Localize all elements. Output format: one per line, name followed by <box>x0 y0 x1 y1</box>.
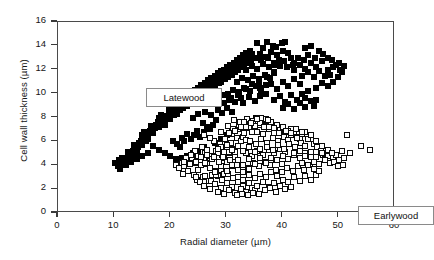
data-point-latewood <box>285 83 291 89</box>
data-point-latewood <box>263 91 269 97</box>
data-point-earlywood <box>215 146 221 152</box>
data-point-earlywood <box>276 130 282 136</box>
data-point-earlywood <box>263 160 269 166</box>
data-point-earlywood <box>288 184 294 190</box>
data-point-earlywood <box>181 159 187 165</box>
data-point-earlywood <box>299 129 305 135</box>
data-point-latewood <box>312 55 318 61</box>
data-point-earlywood <box>273 189 279 195</box>
data-point-earlywood <box>340 162 346 168</box>
data-point-latewood <box>264 74 270 80</box>
data-point-latewood <box>162 122 168 128</box>
x-tick-label: 10 <box>93 219 133 230</box>
data-point-latewood <box>301 57 307 63</box>
data-point-earlywood <box>218 129 224 135</box>
annotation-latewood: Latewood <box>146 88 222 107</box>
data-point-latewood <box>274 86 280 92</box>
data-point-latewood <box>249 81 255 87</box>
data-point-latewood <box>337 67 343 73</box>
data-point-latewood <box>273 44 279 50</box>
data-point-earlywood <box>316 168 322 174</box>
y-tick-label: 10 <box>6 86 46 97</box>
data-point-latewood <box>145 150 151 156</box>
x-tick-label: 30 <box>206 219 246 230</box>
data-point-latewood <box>282 39 288 45</box>
x-tick-mark <box>113 212 114 217</box>
data-point-earlywood <box>221 149 227 155</box>
x-axis-title: Radial diameter (µm) <box>57 236 394 247</box>
data-point-earlywood <box>261 124 267 130</box>
data-point-latewood <box>302 104 308 110</box>
data-point-latewood <box>256 79 262 85</box>
data-point-earlywood <box>227 157 233 163</box>
plot-area: Latewood Earlywood <box>57 21 394 212</box>
data-point-earlywood <box>358 143 364 149</box>
data-point-latewood <box>181 138 187 144</box>
data-point-latewood <box>264 39 270 45</box>
data-point-latewood <box>128 159 134 165</box>
data-point-earlywood <box>204 147 210 153</box>
data-point-earlywood <box>254 116 260 122</box>
x-tick-label: 0 <box>37 219 77 230</box>
y-tick-label: 16 <box>6 14 46 25</box>
data-point-latewood <box>145 136 151 142</box>
data-point-earlywood <box>202 160 208 166</box>
data-point-latewood <box>208 112 214 118</box>
y-tick-label: 8 <box>6 110 46 121</box>
data-point-latewood <box>265 55 271 61</box>
data-point-latewood <box>291 106 297 112</box>
x-tick-label: 50 <box>318 219 358 230</box>
y-tick-label: 6 <box>6 133 46 144</box>
data-point-latewood <box>235 92 241 98</box>
data-point-earlywood <box>248 120 254 126</box>
data-point-latewood <box>139 153 145 159</box>
data-point-earlywood <box>367 147 373 153</box>
data-point-earlywood <box>212 169 218 175</box>
data-point-latewood <box>213 117 219 123</box>
y-tick-label: 2 <box>6 181 46 192</box>
y-tick-label: 4 <box>6 157 46 168</box>
data-point-earlywood <box>246 180 252 186</box>
data-point-earlywood <box>246 166 252 172</box>
x-tick-mark <box>337 212 338 217</box>
data-point-latewood <box>117 162 123 168</box>
data-point-latewood <box>134 156 140 162</box>
data-point-latewood <box>229 109 235 115</box>
data-point-latewood <box>195 111 201 117</box>
data-point-latewood <box>311 103 317 109</box>
data-point-earlywood <box>199 144 205 150</box>
data-point-latewood <box>260 45 266 51</box>
data-point-earlywood <box>232 128 238 134</box>
data-point-latewood <box>305 88 311 94</box>
data-point-latewood <box>308 43 314 49</box>
annotation-earlywood: Earlywood <box>358 206 434 225</box>
data-point-latewood <box>335 74 341 80</box>
data-point-earlywood <box>207 135 213 141</box>
data-point-latewood <box>167 153 173 159</box>
x-tick-label: 40 <box>262 219 302 230</box>
data-point-latewood <box>228 95 234 101</box>
x-tick-label: 20 <box>149 219 189 230</box>
y-tick-label: 0 <box>6 205 46 216</box>
data-point-latewood <box>258 57 264 63</box>
x-tick-mark <box>169 212 170 217</box>
data-point-latewood <box>156 147 162 153</box>
data-point-latewood <box>243 86 249 92</box>
data-point-latewood <box>271 69 277 75</box>
data-point-latewood <box>150 143 156 149</box>
data-point-earlywood <box>257 146 263 152</box>
data-point-earlywood <box>329 150 335 156</box>
data-point-latewood <box>313 97 319 103</box>
data-point-earlywood <box>226 130 232 136</box>
data-point-earlywood <box>238 124 244 130</box>
data-point-latewood <box>122 160 128 166</box>
data-point-earlywood <box>224 168 230 174</box>
y-tick-label: 12 <box>6 62 46 73</box>
data-point-latewood <box>276 57 282 63</box>
data-point-latewood <box>240 100 246 106</box>
data-point-earlywood <box>266 124 272 130</box>
data-point-latewood <box>200 120 206 126</box>
data-point-latewood <box>311 74 317 80</box>
data-point-latewood <box>290 62 296 68</box>
